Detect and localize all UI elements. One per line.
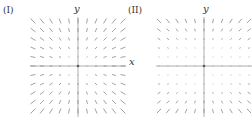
vector-arrow bbox=[31, 19, 36, 24]
vector-arrow bbox=[157, 101, 160, 104]
vector-arrow bbox=[69, 19, 70, 24]
vector-arrow bbox=[87, 92, 88, 95]
vector-arrow bbox=[59, 100, 61, 104]
vector-arrow bbox=[121, 100, 126, 104]
vector-arrow bbox=[31, 100, 36, 104]
vector-arrow bbox=[213, 101, 214, 104]
vector-arrow bbox=[40, 75, 44, 76]
vector-arrow bbox=[59, 28, 61, 32]
vector-arrow bbox=[176, 101, 178, 104]
vector-arrow bbox=[69, 100, 70, 104]
vector-arrow bbox=[31, 57, 36, 58]
vector-arrow bbox=[176, 109, 179, 113]
vector-arrow bbox=[195, 38, 196, 40]
vector-arrow bbox=[95, 57, 97, 58]
vector-arrow bbox=[87, 38, 88, 41]
vector-arrow bbox=[213, 109, 214, 113]
vector-arrow bbox=[167, 48, 168, 49]
vector-arrow bbox=[185, 101, 186, 104]
vector-arrow bbox=[247, 109, 251, 113]
vector-arrow bbox=[213, 29, 214, 32]
vector-arrow bbox=[50, 38, 53, 41]
vector-arrow bbox=[213, 57, 214, 58]
vector-arrow bbox=[112, 83, 116, 85]
vector-arrow bbox=[69, 75, 70, 76]
vector-arrow bbox=[185, 92, 186, 94]
vector-arrow bbox=[230, 101, 232, 104]
vector-arrow bbox=[50, 92, 53, 95]
vector-arrow bbox=[50, 19, 53, 24]
vector-arrow bbox=[185, 29, 186, 32]
vector-arrow bbox=[40, 47, 44, 49]
vector-arrow bbox=[167, 38, 169, 40]
vector-arrow bbox=[104, 100, 107, 104]
vector-arrow bbox=[121, 19, 126, 24]
vector-arrow bbox=[185, 19, 187, 23]
vector-arrow bbox=[112, 75, 116, 76]
vector-arrow bbox=[157, 19, 161, 23]
vector-arrow bbox=[95, 28, 97, 32]
vector-arrow bbox=[112, 47, 116, 49]
vector-arrow bbox=[121, 57, 126, 58]
vector-arrow bbox=[247, 101, 250, 104]
vector-arrow bbox=[87, 109, 88, 114]
vector-arrow bbox=[239, 101, 242, 104]
vector-arrow bbox=[239, 38, 241, 40]
vector-arrow bbox=[176, 48, 177, 49]
vector-arrow bbox=[195, 19, 196, 23]
vector-arrow bbox=[112, 57, 116, 58]
vector-arrow bbox=[157, 29, 160, 32]
vector-arrow bbox=[59, 83, 61, 85]
vector-arrow bbox=[239, 84, 240, 85]
vector-arrow bbox=[239, 29, 242, 32]
vector-arrow bbox=[185, 109, 187, 113]
vector-arrow bbox=[69, 83, 70, 85]
vector-arrow bbox=[166, 109, 169, 113]
vector-arrow bbox=[158, 48, 160, 49]
vector-arrow bbox=[104, 47, 107, 49]
vector-arrow bbox=[40, 92, 44, 95]
vector-arrow bbox=[176, 29, 178, 32]
vector-arrow bbox=[213, 38, 214, 40]
vector-arrow bbox=[40, 83, 44, 85]
vector-arrow bbox=[50, 83, 53, 85]
vector-arrow bbox=[112, 100, 116, 104]
vector-arrow bbox=[195, 75, 196, 76]
vector-arrow bbox=[222, 84, 223, 85]
vector-arrow bbox=[239, 48, 240, 49]
vector-field-figure bbox=[0, 0, 252, 119]
vector-arrow bbox=[186, 84, 187, 85]
vector-arrow bbox=[87, 19, 88, 24]
vector-arrow bbox=[195, 29, 196, 32]
vector-arrow bbox=[248, 38, 251, 40]
vector-arrow bbox=[31, 83, 36, 85]
vector-arrow bbox=[112, 19, 116, 24]
vector-arrow bbox=[221, 38, 222, 40]
vector-arrow bbox=[69, 38, 70, 41]
vector-arrow bbox=[87, 75, 88, 76]
vector-arrow bbox=[31, 28, 36, 32]
vector-arrow bbox=[50, 28, 53, 32]
vector-arrow bbox=[95, 92, 97, 95]
vector-arrow bbox=[221, 92, 222, 94]
vector-arrow bbox=[87, 100, 88, 104]
vector-arrow bbox=[167, 101, 170, 104]
vector-arrow bbox=[95, 47, 97, 49]
vector-arrow bbox=[31, 75, 36, 76]
vector-arrow bbox=[40, 19, 44, 24]
vector-arrow bbox=[104, 28, 107, 32]
vector-arrow bbox=[69, 47, 70, 49]
vector-arrow bbox=[50, 75, 53, 76]
vector-arrow bbox=[69, 28, 70, 32]
vector-arrow bbox=[248, 84, 250, 85]
vector-arrow bbox=[50, 100, 53, 104]
vector-arrow bbox=[221, 109, 223, 113]
vector-arrow bbox=[59, 75, 61, 76]
vector-arrow bbox=[167, 29, 170, 32]
vector-arrow bbox=[248, 48, 250, 49]
vector-arrow bbox=[248, 92, 251, 94]
vector-arrow bbox=[247, 29, 250, 32]
vector-arrow bbox=[31, 92, 36, 95]
vector-arrow bbox=[87, 28, 88, 32]
vector-arrow bbox=[221, 19, 223, 23]
